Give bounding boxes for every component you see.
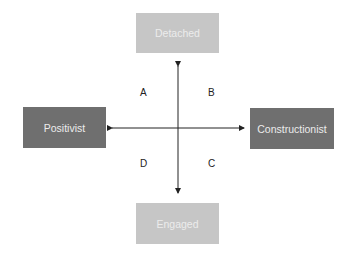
- node-constructionist: Constructionist: [250, 108, 334, 149]
- node-engaged: Engaged: [136, 203, 219, 244]
- node-detached: Detached: [136, 13, 219, 53]
- node-detached-label: Detached: [155, 27, 200, 39]
- quadrant-label-d: D: [140, 158, 147, 169]
- node-constructionist-label: Constructionist: [257, 123, 326, 135]
- quadrant-label-c: C: [208, 158, 215, 169]
- node-positivist-label: Positivist: [44, 122, 85, 134]
- quadrant-label-a: A: [140, 87, 147, 98]
- node-positivist: Positivist: [23, 107, 106, 148]
- node-engaged-label: Engaged: [156, 218, 198, 230]
- quadrant-label-b: B: [208, 87, 215, 98]
